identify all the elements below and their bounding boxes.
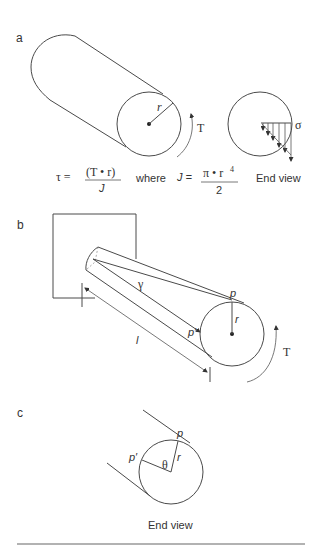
point-p-prime-label: p′ <box>187 326 197 338</box>
tangent-line-lower <box>107 463 150 496</box>
fixed-support <box>53 214 136 298</box>
j-denominator: 2 <box>216 184 222 196</box>
tau-numerator: (T • r) <box>86 165 115 179</box>
end-view-caption: End view <box>148 519 193 531</box>
panel-c: c p p′ θ r End view <box>17 406 203 531</box>
length-label: l <box>136 334 139 346</box>
radius-label-c: r <box>177 451 182 463</box>
tau-denominator: J <box>98 182 105 194</box>
point-p-label: p <box>229 287 236 299</box>
panel-c-label: c <box>17 406 23 420</box>
j-lhs: J = <box>176 171 193 183</box>
j-exponent: 4 <box>230 165 234 174</box>
torsion-formula: τ = (T • r) J where J = π • r 4 2 End vi… <box>56 165 301 196</box>
torsion-diagram: a r T σ <box>0 0 314 546</box>
original-line <box>93 259 200 332</box>
end-view-circle <box>228 92 292 156</box>
panel-b: b γ p p′ r l T <box>17 214 291 382</box>
cylinder-top-edge <box>75 36 163 94</box>
theta-label: θ <box>162 458 168 472</box>
end-view-stress: σ <box>228 92 302 161</box>
panel-b-label: b <box>17 218 24 232</box>
stress-label: σ <box>295 118 302 132</box>
torque-arrow-icon-b <box>247 326 276 382</box>
point-p-prime-label-c: p′ <box>128 451 138 463</box>
stress-envelope <box>262 124 291 155</box>
gamma-label: γ <box>137 277 144 291</box>
where-text: where <box>135 172 166 184</box>
end-view-label-a: End view <box>256 172 301 184</box>
torque-label-b: T <box>283 345 291 359</box>
shaft-top-edge <box>98 247 244 303</box>
shaft-fixed-end <box>86 247 98 270</box>
panel-a-label: a <box>16 31 23 45</box>
point-p-label-c: p <box>176 427 183 439</box>
tau-lhs: τ = <box>56 170 71 184</box>
torque-label: T <box>197 121 205 135</box>
cylinder-bottom-edge <box>50 100 126 147</box>
panel-a: a r T σ <box>16 31 302 196</box>
twisted-line <box>93 259 232 300</box>
cylinder: r <box>31 35 181 156</box>
j-numerator: π • r <box>203 166 223 180</box>
cylinder-back-cap <box>31 35 75 100</box>
radius-label: r <box>157 100 162 114</box>
radius-label-b: r <box>235 313 240 325</box>
